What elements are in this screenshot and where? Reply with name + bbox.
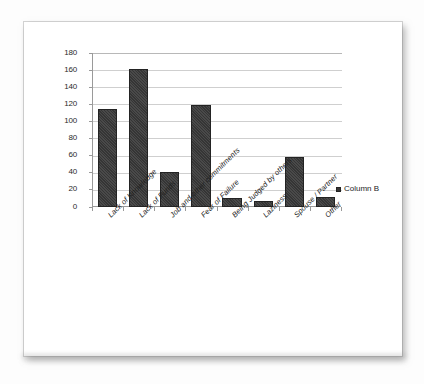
bar-chart: 180 160 140 120 100 80 60 40 20 0	[0, 0, 424, 384]
y-tick-label-20: 20	[37, 185, 77, 193]
legend-swatch-column-b	[336, 187, 341, 192]
y-tick-label-0: 0	[37, 203, 77, 211]
y-tick-label-100: 100	[37, 117, 77, 125]
legend-label-column-b: Column B	[344, 185, 379, 193]
x-tick-1	[92, 207, 93, 211]
y-tick-label-160: 160	[37, 66, 77, 74]
bar-series-column-b	[92, 53, 341, 207]
y-tick-label-120: 120	[37, 100, 77, 108]
chart-legend: Column B	[336, 185, 379, 193]
y-tick-label-80: 80	[37, 134, 77, 142]
y-tick-label-140: 140	[37, 83, 77, 91]
page-root: 180 160 140 120 100 80 60 40 20 0	[0, 0, 424, 384]
y-tick-label-40: 40	[37, 168, 77, 176]
x-tick-end	[341, 207, 342, 211]
bar-1	[98, 109, 117, 207]
y-tick-label-180: 180	[37, 49, 77, 57]
y-tick-label-60: 60	[37, 151, 77, 159]
